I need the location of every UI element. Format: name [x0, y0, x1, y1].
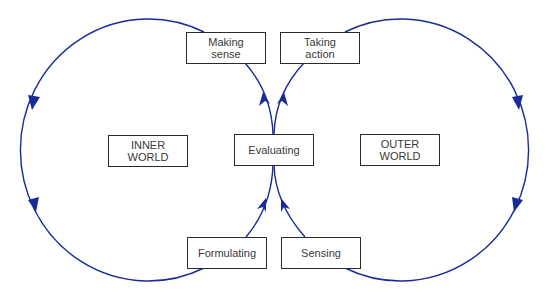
outer-loop-arrow-lower-icon — [512, 197, 523, 212]
node-inner-world: INNER WORLD — [108, 135, 188, 167]
formulating-to-evaluating-arrow-icon — [257, 198, 266, 212]
formulating-to-evaluating-connector — [246, 165, 273, 237]
evaluating-to-making-sense-connector — [245, 63, 273, 134]
sensing-to-evaluating-connector — [274, 165, 305, 237]
evaluating-to-taking-action-connector — [274, 63, 304, 134]
node-taking-action: Taking action — [280, 32, 360, 64]
sense-making-loop-diagram: Making sense Taking action INNER WORLD E… — [0, 0, 549, 299]
node-sensing: Sensing — [281, 237, 361, 269]
node-outer-world: OUTER WORLD — [360, 134, 440, 166]
node-evaluating: Evaluating — [234, 134, 314, 166]
node-formulating: Formulating — [187, 237, 267, 269]
node-making-sense: Making sense — [186, 32, 266, 64]
